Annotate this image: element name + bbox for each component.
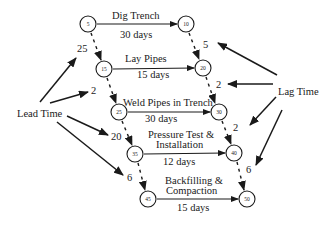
node-40: 40 bbox=[226, 145, 242, 161]
dep-35-45 bbox=[138, 163, 145, 190]
lead-value-2: 2 bbox=[91, 85, 96, 96]
lag-value-5: 5 bbox=[203, 39, 208, 50]
activity-duration-lay-pipes: 15 days bbox=[137, 69, 169, 80]
lead-time-label: Lead Time bbox=[17, 108, 63, 119]
activity-duration-backfilling: 15 days bbox=[177, 202, 209, 213]
lead-value-6: 6 bbox=[127, 172, 132, 183]
svg-text:35: 35 bbox=[132, 151, 138, 157]
activity-name-weld-pipes: Weld Pipes in Trench bbox=[123, 97, 214, 108]
node-30: 30 bbox=[211, 104, 227, 120]
lag-value-2a: 2 bbox=[216, 79, 221, 90]
svg-text:20: 20 bbox=[200, 65, 206, 71]
dep-40-50 bbox=[237, 162, 244, 190]
svg-text:40: 40 bbox=[231, 150, 237, 156]
lead-value-20: 20 bbox=[111, 131, 122, 142]
node-20: 20 bbox=[195, 60, 211, 76]
dep-10-20 bbox=[189, 33, 199, 59]
lag-value-2b: 2 bbox=[233, 122, 238, 133]
lag-value-6: 6 bbox=[246, 164, 251, 175]
node-50: 50 bbox=[239, 191, 255, 207]
network-diagram: 5 10 15 20 25 30 35 40 45 50 Dig Trench … bbox=[0, 0, 332, 226]
activity-duration-weld-pipes: 30 days bbox=[145, 113, 177, 124]
svg-text:50: 50 bbox=[244, 196, 250, 202]
node-45: 45 bbox=[140, 191, 156, 207]
activity-duration-dig-trench: 30 days bbox=[120, 29, 152, 40]
node-5: 5 bbox=[80, 16, 96, 32]
svg-text:30: 30 bbox=[216, 109, 222, 115]
activity-name-pressure-test-2: Installation bbox=[156, 139, 204, 150]
svg-text:5: 5 bbox=[87, 21, 90, 27]
svg-text:25: 25 bbox=[116, 109, 122, 115]
dep-30-40 bbox=[222, 121, 231, 144]
dep-5-15 bbox=[91, 33, 101, 60]
arrow-pressure-test bbox=[144, 153, 225, 154]
activity-name-lay-pipes: Lay Pipes bbox=[125, 53, 167, 64]
activity-name-backfilling-2: Compaction bbox=[166, 185, 218, 196]
activity-duration-pressure-test: 12 days bbox=[163, 156, 195, 167]
lag-time-arrows bbox=[218, 43, 282, 165]
lag-time-label: Lag Time bbox=[278, 86, 319, 97]
node-10: 10 bbox=[178, 16, 194, 32]
node-35: 35 bbox=[127, 146, 143, 162]
svg-text:45: 45 bbox=[145, 196, 151, 202]
node-15: 15 bbox=[96, 61, 112, 77]
svg-text:15: 15 bbox=[101, 66, 107, 72]
activity-name-dig-trench: Dig Trench bbox=[112, 10, 160, 21]
dep-15-25 bbox=[107, 78, 116, 103]
lead-value-25: 25 bbox=[77, 43, 88, 54]
dep-25-35 bbox=[122, 121, 132, 145]
svg-text:10: 10 bbox=[183, 21, 189, 27]
